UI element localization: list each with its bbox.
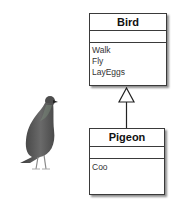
- method-fly: Fly: [92, 56, 166, 67]
- class-bird-name: Bird: [90, 14, 166, 31]
- method-coo: Coo: [92, 162, 164, 173]
- class-pigeon[interactable]: Pigeon Coo: [89, 128, 165, 195]
- class-pigeon-name: Pigeon: [90, 129, 164, 147]
- class-pigeon-attributes: [90, 147, 164, 159]
- method-layeggs: LayEggs: [92, 67, 166, 78]
- class-bird-methods: Walk Fly LayEggs: [90, 43, 166, 78]
- class-pigeon-methods: Coo: [90, 159, 164, 173]
- class-bird[interactable]: Bird Walk Fly LayEggs: [89, 13, 167, 86]
- class-bird-attributes: [90, 31, 166, 43]
- method-walk: Walk: [92, 45, 166, 56]
